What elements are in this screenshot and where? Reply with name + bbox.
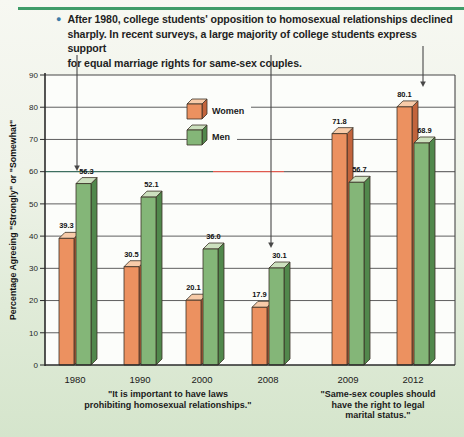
bar-women-2012-front [397, 107, 412, 365]
bar-value-men-2012: 68.9 [417, 126, 432, 135]
y-tick-label-60: 60 [29, 167, 38, 176]
bar-value-women-2008: 17.9 [252, 290, 267, 299]
bar-men-2000-side [218, 243, 224, 365]
bar-value-men-2000: 36.0 [206, 232, 221, 241]
bar-men-2012-side [429, 137, 435, 365]
bar-men-1990-front [141, 197, 156, 365]
bar-men-1980-side [91, 178, 97, 365]
bar-women-2000-front [186, 300, 201, 365]
y-tick-label-80: 80 [29, 103, 38, 112]
legend-label-men: Men [212, 132, 230, 142]
bar-men-2009-side [364, 176, 370, 365]
legend-label-women: Women [212, 106, 244, 116]
bar-women-1990-front [124, 267, 139, 365]
bar-men-1990-side [156, 191, 162, 365]
bar-chart: 0102030405060708090WomenMen39.356.330.55… [0, 0, 464, 437]
x-label-2009: 2009 [337, 374, 358, 385]
y-tick-label-70: 70 [29, 135, 38, 144]
bar-men-2009-front [349, 182, 364, 365]
bar-men-2000-front [203, 249, 218, 365]
y-tick-label-40: 40 [29, 232, 38, 241]
bar-men-1980-front [76, 184, 91, 365]
y-tick-label-50: 50 [29, 200, 38, 209]
bar-men-2008-front [269, 268, 284, 365]
bar-value-men-1980: 56.3 [79, 167, 94, 176]
x-label-1980: 1980 [64, 374, 85, 385]
bar-value-men-2008: 30.1 [272, 251, 287, 260]
x-label-2000: 2000 [191, 374, 212, 385]
y-tick-label-30: 30 [29, 264, 38, 273]
bar-value-women-2009: 71.8 [332, 117, 347, 126]
plot-area [45, 75, 455, 365]
x-label-1990: 1990 [129, 374, 150, 385]
x-label-2012: 2012 [402, 374, 423, 385]
bar-women-1980-front [59, 238, 74, 365]
y-tick-label-10: 10 [29, 329, 38, 338]
y-axis-title: Percentage Agreeing "Strongly" or "Somew… [8, 120, 18, 320]
y-tick-label-0: 0 [34, 361, 39, 370]
bar-men-2008-side [284, 262, 290, 365]
caption-left: "It is important to have laws prohibitin… [58, 389, 278, 410]
page: ● After 1980, college students' oppositi… [0, 0, 464, 437]
y-tick-label-90: 90 [29, 71, 38, 80]
bar-value-women-2000: 20.1 [186, 283, 201, 292]
bar-men-2012-front [414, 143, 429, 365]
legend-cube-women-front [187, 104, 202, 119]
x-label-2008: 2008 [257, 374, 278, 385]
caption-right: "Same-sex couples should have the right … [294, 389, 462, 421]
bar-value-women-1990: 30.5 [124, 250, 139, 259]
bar-women-2008-front [252, 307, 267, 365]
y-tick-label-20: 20 [29, 296, 38, 305]
bar-value-women-2012: 80.1 [397, 90, 412, 99]
bar-value-men-2009: 56.7 [352, 165, 367, 174]
bar-value-men-1990: 52.1 [144, 180, 159, 189]
bar-women-2009-front [332, 134, 347, 365]
legend-cube-men-front [187, 130, 202, 145]
bar-value-women-1980: 39.3 [59, 221, 74, 230]
